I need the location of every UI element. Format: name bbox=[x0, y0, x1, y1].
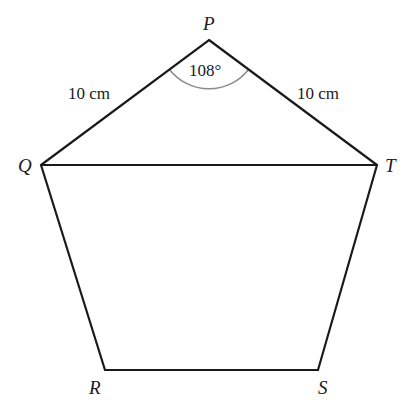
vertex-label-t: T bbox=[385, 155, 397, 176]
vertex-label-s: S bbox=[318, 377, 328, 398]
side-label-pq: 10 cm bbox=[68, 84, 110, 103]
angle-label-p: 108° bbox=[189, 61, 221, 80]
vertex-label-p: P bbox=[202, 13, 215, 34]
pentagon-diagram: P Q T R S 10 cm 10 cm 108° bbox=[0, 0, 419, 418]
side-label-pt: 10 cm bbox=[297, 84, 339, 103]
vertex-label-q: Q bbox=[18, 155, 32, 176]
vertex-label-r: R bbox=[88, 377, 101, 398]
